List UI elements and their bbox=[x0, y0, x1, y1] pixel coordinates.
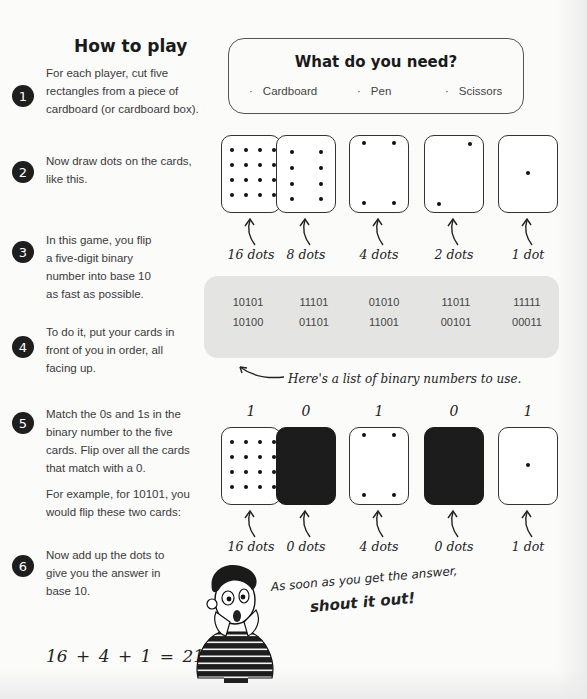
step-text: Now draw dots on the cards, like this. bbox=[46, 152, 204, 188]
dot-card bbox=[221, 427, 281, 505]
step-number-badge: 3 bbox=[12, 241, 34, 263]
card-dot bbox=[258, 440, 262, 444]
dot-card bbox=[424, 135, 484, 213]
bullet-icon: · bbox=[357, 85, 361, 97]
binary-list-note: Here's a list of binary numbers to use. bbox=[288, 372, 521, 386]
card-dot bbox=[244, 193, 248, 197]
dot-card bbox=[276, 135, 336, 213]
card-dot bbox=[319, 182, 323, 186]
card-dot bbox=[244, 485, 248, 489]
card-dot bbox=[230, 148, 234, 152]
step-text: For each player, cut five rectangles fro… bbox=[46, 64, 204, 118]
binary-digit-label: 1 bbox=[498, 403, 558, 419]
materials-item: ·Cardboard bbox=[249, 85, 317, 97]
card-dot bbox=[319, 197, 323, 201]
card-dot bbox=[258, 455, 262, 459]
curved-up-arrow-icon bbox=[244, 509, 258, 539]
card-dot bbox=[244, 470, 248, 474]
card-dot bbox=[290, 182, 294, 186]
curved-up-arrow-icon bbox=[372, 217, 386, 247]
card-dot bbox=[290, 166, 294, 170]
bullet-icon: · bbox=[445, 85, 449, 97]
binary-number: 01010 bbox=[354, 296, 414, 308]
card-dot-count-label: 0 dots bbox=[266, 539, 346, 554]
curved-up-arrow-icon bbox=[299, 509, 313, 539]
page-bottom-shadow bbox=[0, 669, 587, 699]
step-paragraph: In this game, you flip a five-digit bina… bbox=[46, 231, 156, 303]
binary-number: 00101 bbox=[426, 316, 486, 328]
binary-numbers-panel: 1010111101010101101111111101000110111001… bbox=[204, 276, 559, 358]
card-dot-count-label: 0 dots bbox=[414, 539, 494, 554]
binary-number: 11001 bbox=[354, 316, 414, 328]
step-number-badge: 6 bbox=[12, 555, 34, 577]
card-dot bbox=[392, 493, 396, 497]
curved-left-arrow-icon bbox=[236, 364, 286, 382]
dot-card bbox=[498, 427, 558, 505]
page-edge-shadow bbox=[557, 0, 587, 699]
card-dot bbox=[230, 193, 234, 197]
binary-number: 11101 bbox=[284, 296, 344, 308]
curved-up-arrow-icon bbox=[372, 509, 386, 539]
surprised-boy-illustration bbox=[190, 560, 280, 685]
step-text: Match the 0s and 1s in the binary number… bbox=[46, 405, 196, 521]
materials-title: What do you need? bbox=[229, 53, 523, 71]
card-dot bbox=[526, 463, 530, 467]
curved-up-arrow-icon bbox=[447, 217, 461, 247]
card-dot-count-label: 4 dots bbox=[339, 247, 419, 262]
curved-up-arrow-icon bbox=[447, 509, 461, 539]
step-paragraph: For example, for 10101, you would flip t… bbox=[46, 485, 196, 521]
bullet-icon: · bbox=[249, 85, 253, 97]
materials-box: What do you need? ·Cardboard ·Pen ·Sciss… bbox=[228, 38, 524, 114]
binary-digit-label: 1 bbox=[221, 403, 281, 419]
card-dot bbox=[230, 455, 234, 459]
step-text: To do it, put your cards in front of you… bbox=[46, 323, 196, 377]
card-dot bbox=[230, 163, 234, 167]
binary-digit-label: 0 bbox=[276, 403, 336, 419]
card-dot-count-label: 4 dots bbox=[339, 539, 419, 554]
card-dot bbox=[230, 440, 234, 444]
curved-up-arrow-icon bbox=[521, 217, 535, 247]
card-dot-count-label: 1 dot bbox=[488, 539, 568, 554]
curved-up-arrow-icon bbox=[244, 217, 258, 247]
binary-number: 00011 bbox=[497, 316, 557, 328]
step-paragraph: For each player, cut five rectangles fro… bbox=[46, 64, 204, 118]
flipped-card bbox=[276, 427, 336, 505]
dot-card bbox=[349, 135, 409, 213]
card-dot bbox=[258, 163, 262, 167]
dot-card bbox=[349, 427, 409, 505]
binary-number: 01101 bbox=[284, 316, 344, 328]
dot-card bbox=[498, 135, 558, 213]
flipped-card bbox=[424, 427, 484, 505]
card-dot-count-label: 1 dot bbox=[488, 247, 568, 262]
binary-number: 11011 bbox=[426, 296, 486, 308]
card-dot bbox=[392, 141, 396, 145]
card-dot bbox=[290, 150, 294, 154]
materials-item: ·Pen bbox=[357, 85, 391, 97]
card-dot bbox=[244, 148, 248, 152]
card-dot bbox=[244, 440, 248, 444]
step-number-badge: 2 bbox=[12, 161, 34, 183]
card-dot bbox=[319, 166, 323, 170]
card-dot bbox=[392, 201, 396, 205]
card-dot bbox=[526, 171, 530, 175]
binary-digit-label: 0 bbox=[424, 403, 484, 419]
curved-up-arrow-icon bbox=[521, 509, 535, 539]
step-paragraph: To do it, put your cards in front of you… bbox=[46, 323, 196, 377]
card-dot bbox=[230, 178, 234, 182]
materials-item: ·Scissors bbox=[445, 85, 502, 97]
card-dot bbox=[244, 455, 248, 459]
step-text: In this game, you flip a five-digit bina… bbox=[46, 231, 156, 303]
materials-item-label: Cardboard bbox=[263, 85, 317, 97]
materials-item-label: Pen bbox=[371, 85, 391, 97]
step-number-badge: 1 bbox=[12, 85, 34, 107]
card-dot-count-label: 2 dots bbox=[414, 247, 494, 262]
card-dot bbox=[258, 178, 262, 182]
dot-card bbox=[221, 135, 281, 213]
card-dot bbox=[258, 485, 262, 489]
binary-digit-label: 1 bbox=[349, 403, 409, 419]
card-dot bbox=[468, 142, 472, 146]
step-paragraph: Match the 0s and 1s in the binary number… bbox=[46, 405, 196, 477]
binary-number: 10100 bbox=[218, 316, 278, 328]
card-dot bbox=[290, 197, 294, 201]
card-dot bbox=[258, 193, 262, 197]
